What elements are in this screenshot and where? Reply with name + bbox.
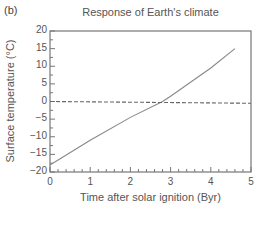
y-tick-label: 10 xyxy=(23,59,47,70)
reference-dashed-line xyxy=(50,102,251,104)
x-tick-label: 4 xyxy=(203,176,219,187)
y-tick-label: −15 xyxy=(23,147,47,158)
x-tick-label: 5 xyxy=(243,176,259,187)
y-axis-label: Surface temperature (°C) xyxy=(4,40,16,163)
x-tick-label: 3 xyxy=(163,176,179,187)
y-tick-label: 0 xyxy=(23,95,47,106)
temperature-line xyxy=(50,49,235,165)
x-tick-label: 0 xyxy=(42,176,58,187)
y-tick-label: −20 xyxy=(23,165,47,176)
y-tick-label: −5 xyxy=(23,112,47,123)
x-tick-label: 1 xyxy=(82,176,98,187)
y-tick-label: 15 xyxy=(23,42,47,53)
y-tick-label: −10 xyxy=(23,130,47,141)
x-tick-label: 2 xyxy=(122,176,138,187)
chart-series xyxy=(50,49,251,165)
y-tick-label: 5 xyxy=(23,77,47,88)
y-tick-label: 20 xyxy=(23,24,47,35)
x-axis-label: Time after solar ignition (Byr) xyxy=(50,191,251,203)
